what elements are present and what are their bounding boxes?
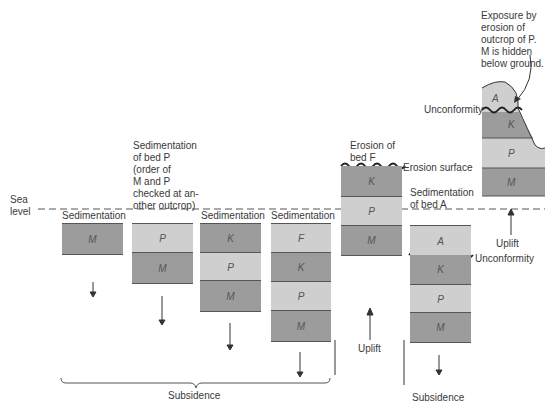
bed-p: P (341, 196, 402, 226)
column-stage-4: F K P M (271, 223, 331, 340)
bed-m: M (62, 223, 123, 255)
bed-m: M (341, 225, 402, 256)
column-stage-3: K P M (200, 223, 261, 310)
column-stage-6: A K P M (410, 225, 471, 341)
unconformity-label-6: Unconformity (475, 253, 534, 265)
uplift-label-7: Uplift (496, 238, 519, 250)
svg-text:M: M (507, 177, 516, 188)
bed-a: A (410, 225, 471, 256)
bed-m: M (200, 280, 261, 312)
caption-stage-2: Sedimentation of bed P (order of M and P… (133, 140, 199, 212)
caption-stage-5: Erosion of bed F (350, 140, 395, 164)
svg-text:A: A (491, 93, 499, 104)
diagram-lines: A K P M (0, 0, 559, 413)
bed-m: M (410, 312, 471, 343)
uplift-label-5: Uplift (358, 343, 381, 355)
bed-m: M (271, 310, 331, 342)
brace-subsidence-label: Subsidence (168, 390, 220, 402)
column-stage-5: K P M (341, 166, 402, 254)
bed-p: P (410, 284, 471, 313)
bed-k: K (271, 252, 331, 282)
svg-text:P: P (508, 148, 515, 159)
sea-level-label: Sea level (10, 194, 31, 218)
column-stage-1: M (62, 223, 123, 253)
bed-f: F (271, 223, 331, 253)
bed-k: K (410, 255, 471, 284)
bed-p: P (132, 223, 193, 253)
erosion-surface-label: Erosion surface (403, 162, 472, 174)
subsidence-label-6: Subsidence (412, 392, 464, 404)
bed-k: K (200, 223, 261, 253)
unconformity-label-7: Unconformity (424, 104, 483, 116)
bed-m: M (132, 252, 193, 284)
bed-p: P (200, 252, 261, 281)
caption-stage-6: Sedimentation of bed A (410, 187, 474, 211)
bed-k: K (341, 166, 402, 196)
caption-stage-7: Exposure by erosion of outcrop of P. M i… (481, 10, 544, 70)
column-stage-2: P M (132, 223, 193, 282)
bed-p: P (271, 281, 331, 311)
